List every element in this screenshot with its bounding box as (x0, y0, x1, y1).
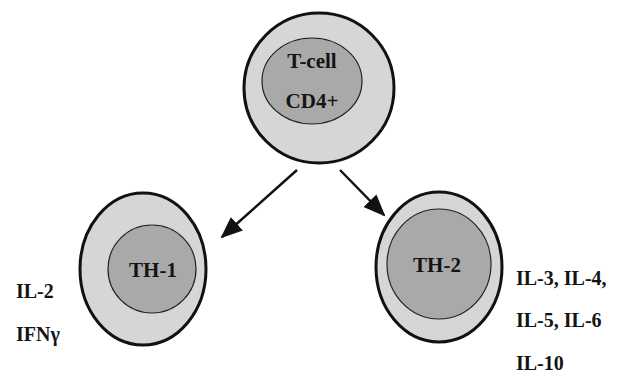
th1-node: TH-1 (80, 193, 206, 345)
th2-node: TH-2 (376, 192, 502, 342)
th1-cytokine-ifng: IFNγ (16, 323, 60, 346)
th2-label: TH-2 (413, 253, 461, 277)
th1-label: TH-1 (129, 258, 177, 282)
arrow-to-th2 (340, 170, 384, 215)
th2-cytokines-line2: IL-5, IL-6 (516, 309, 602, 331)
th1-cytokine-il2: IL-2 (16, 280, 54, 302)
t-cell-differentiation-diagram: T-cell CD4+ TH-1 IL-2 IFNγ TH-2 IL-3, IL… (0, 0, 640, 385)
t-cell-label: T-cell (287, 49, 337, 73)
arrow-to-th1 (222, 170, 297, 237)
cd4-label: CD4+ (286, 89, 339, 113)
t-cell-cd4-node: T-cell CD4+ (244, 13, 394, 163)
th2-cytokines-line3: IL-10 (516, 352, 564, 374)
th2-cytokines-line1: IL-3, IL-4, (516, 267, 607, 289)
